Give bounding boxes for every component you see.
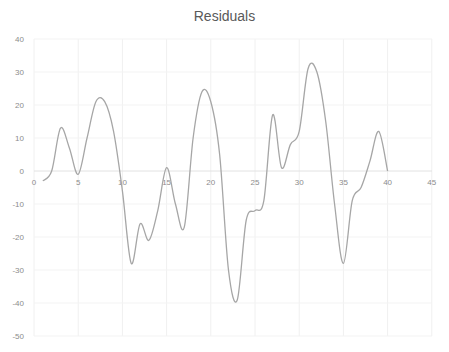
x-tick-label: 10	[118, 178, 127, 187]
y-tick-label: 10	[15, 134, 24, 143]
x-tick-label: 0	[32, 178, 37, 187]
residuals-line-chart: 403020100-10-20-30-40-500510152025303540…	[0, 0, 449, 352]
y-tick-label: -50	[12, 332, 24, 341]
x-tick-label: 45	[427, 178, 436, 187]
x-tick-label: 35	[339, 178, 348, 187]
y-tick-label: -40	[12, 299, 24, 308]
x-tick-label: 20	[206, 178, 215, 187]
y-tick-label: 0	[20, 167, 25, 176]
x-tick-label: 40	[383, 178, 392, 187]
y-tick-label: 30	[15, 68, 24, 77]
y-tick-label: -30	[12, 266, 24, 275]
y-tick-label: 40	[15, 35, 24, 44]
x-tick-label: 5	[76, 178, 81, 187]
x-tick-label: 30	[295, 178, 304, 187]
y-tick-label: -20	[12, 233, 24, 242]
x-tick-label: 25	[251, 178, 260, 187]
y-tick-label: 20	[15, 101, 24, 110]
y-tick-label: -10	[12, 200, 24, 209]
